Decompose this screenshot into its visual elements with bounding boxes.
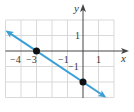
x-tick-label: −4: [10, 54, 21, 65]
x-axis-label: x: [120, 52, 126, 64]
y-axis-label: y: [73, 2, 79, 14]
data-line: [10, 33, 102, 95]
intercept-point: [80, 79, 87, 86]
x-tick-label: 1: [96, 54, 101, 65]
y-tick-label: −1: [68, 61, 79, 72]
line-graph: x y −4 −3 −1 1 1 −1: [0, 0, 134, 112]
intercept-point: [33, 48, 40, 55]
y-tick-label: 1: [75, 30, 80, 41]
x-tick-label: −3: [26, 54, 37, 65]
